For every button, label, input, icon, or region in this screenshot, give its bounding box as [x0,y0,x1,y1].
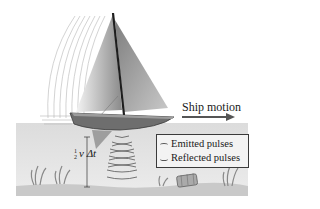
reflected-pulse-swatch-icon [160,157,168,161]
legend-item-reflected: Reflected pulses [160,152,240,163]
depth-formula-label: 12v Δt [74,147,96,160]
legend: Emitted pulses Reflected pulses [156,134,249,168]
emitted-pulse-swatch-icon [160,143,168,147]
legend-item-emitted: Emitted pulses [160,138,233,149]
ship-motion-label: Ship motion [182,100,241,115]
fraction: 12 [74,148,77,160]
